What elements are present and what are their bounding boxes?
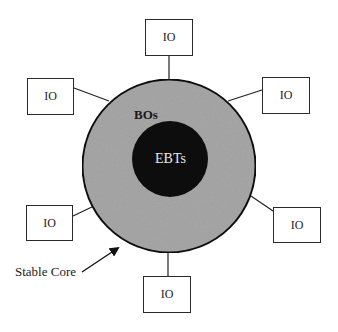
stable-core-arrow [82, 248, 118, 272]
core-label-ebts: EBTs [155, 151, 186, 167]
connector-upper-left [74, 88, 109, 101]
io-node-upper-right: IO [262, 77, 310, 114]
connector-lower-left [73, 206, 94, 216]
connector-lower-right [251, 196, 273, 211]
diagram-canvas: IO IO IO IO IO IO BOs EBTs Stable Core [0, 0, 338, 332]
stable-core-annotation: Stable Core [15, 264, 76, 280]
ring-label-bos: BOs [134, 107, 158, 123]
io-label: IO [163, 30, 176, 45]
io-label: IO [161, 287, 174, 302]
connector-upper-right [228, 90, 262, 101]
io-label: IO [280, 88, 293, 103]
io-node-lower-left: IO [26, 205, 73, 241]
io-node-lower-right: IO [273, 207, 321, 243]
io-node-upper-left: IO [27, 78, 74, 115]
io-node-top: IO [145, 19, 193, 56]
io-node-bottom: IO [143, 276, 191, 313]
io-label: IO [44, 89, 57, 104]
io-label: IO [43, 216, 56, 231]
io-label: IO [291, 218, 304, 233]
